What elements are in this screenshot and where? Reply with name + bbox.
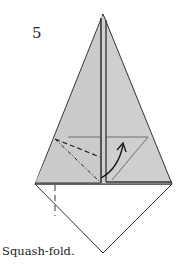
origami-diagram [0, 0, 184, 268]
white-paper-bottom [35, 184, 172, 253]
instruction-caption: Squash-fold. [2, 244, 75, 258]
